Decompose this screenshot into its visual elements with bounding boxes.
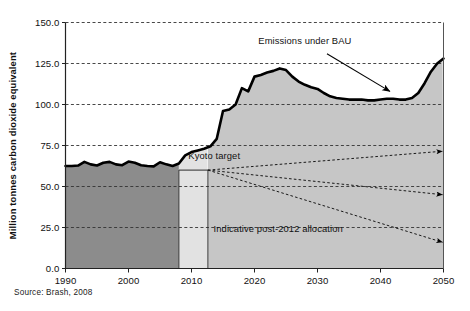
x-tick-label: 2030	[307, 275, 329, 286]
x-tick-label: 2050	[433, 275, 455, 286]
y-tick-label: 0.0	[46, 263, 60, 274]
y-tick-label: 150.0	[35, 17, 60, 28]
y-tick-label: 100.0	[35, 99, 60, 110]
annotation-arrow-emissions-under-bau	[327, 54, 390, 92]
region-post-2012	[208, 59, 444, 268]
annotation-emissions-under-bau: Emissions under BAU	[258, 35, 351, 46]
emissions-projection-figure: 150.0125.0100.075.050.025.00.01990200020…	[0, 0, 470, 311]
y-tick-label: 125.0	[35, 58, 60, 69]
x-tick-label: 2010	[181, 275, 203, 286]
x-tick-label: 2020	[244, 275, 266, 286]
x-tick-label: 1990	[55, 275, 77, 286]
y-axis-title: Million tonnes carbon dioxide equivalent	[7, 52, 18, 239]
annotation-kyoto-target: Kyoto target	[188, 150, 240, 161]
x-tick-label: 2040	[370, 275, 392, 286]
region-kyoto-commitment-period	[179, 148, 208, 269]
x-tick-label: 2000	[118, 275, 140, 286]
annotation-indicative-post-2012-allocation: Indicative post-2012 allocation	[214, 223, 343, 234]
y-tick-label: 25.0	[40, 222, 59, 233]
region-historical	[66, 162, 179, 269]
emissions-chart: 150.0125.0100.075.050.025.00.01990200020…	[0, 0, 470, 311]
y-tick-label: 50.0	[40, 181, 59, 192]
source-note: Source: Brash, 2008	[14, 288, 92, 297]
y-tick-label: 75.0	[40, 140, 59, 151]
